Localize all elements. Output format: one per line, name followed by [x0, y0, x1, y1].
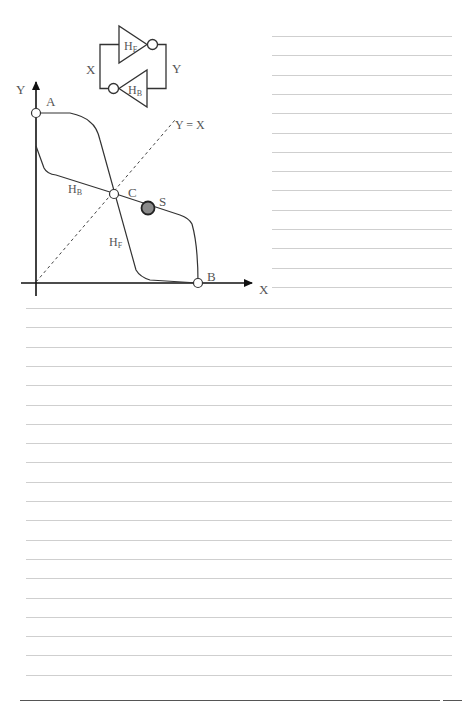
point-a-label: A [46, 94, 56, 109]
curve-hf-label: HF [109, 235, 123, 250]
wire-y [147, 45, 166, 89]
point-c-label: C [128, 185, 137, 200]
point-s-marker [142, 202, 155, 215]
bistable-diagram: HF HB X Y Y X Y = X HB HF A C S B [0, 0, 476, 705]
point-s-label: S [159, 194, 166, 209]
diagonal-label: Y = X [175, 118, 205, 132]
diagonal-y-equals-x [36, 120, 175, 282]
point-c-marker [110, 190, 119, 199]
wire-x [100, 45, 119, 89]
forward-inverter-bubble-icon [148, 40, 158, 50]
point-b-marker [194, 279, 203, 288]
curve-hb-label: HB [68, 182, 82, 197]
point-b-label: B [207, 269, 216, 284]
x-axis-label: X [259, 282, 269, 297]
curve-hb [36, 146, 198, 283]
y-axis-label: Y [16, 82, 26, 97]
node-y-label: Y [172, 61, 182, 76]
point-a-marker [32, 109, 41, 118]
backward-inverter-bubble-icon [109, 84, 119, 94]
node-x-label: X [86, 62, 96, 77]
page-bottom-rule [20, 700, 440, 701]
page-corner-mark [443, 700, 462, 701]
